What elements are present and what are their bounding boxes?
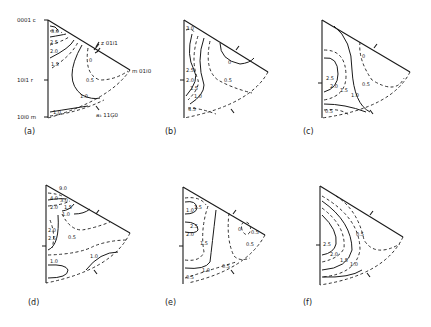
contour-label: 0 xyxy=(362,53,365,59)
panel-f-caption: (f) xyxy=(303,298,312,307)
panel-c: 2.5 2.0 1.5 1.0 0.5 0 0.5 (c) xyxy=(303,20,410,136)
contour-label: 1.5 xyxy=(190,85,198,91)
contour-label: 1.0 xyxy=(50,258,58,264)
contour-label: 1.0 xyxy=(350,261,358,267)
contour-label: 0.5 xyxy=(224,77,232,83)
contour-label: 0 xyxy=(89,57,92,63)
contour-label: 2.5 xyxy=(48,235,56,241)
pole-label-r: 10ī1 r xyxy=(17,77,34,83)
contour-label: 2.0 xyxy=(330,83,338,89)
contour-label: 0.5 xyxy=(362,81,370,87)
contour-label: 0 xyxy=(238,226,241,232)
pole-label-m2: m 01ī0 xyxy=(132,68,152,74)
contour-label: 9.0 xyxy=(59,185,67,191)
contour-label: 1.0 xyxy=(53,109,61,115)
contour-label: 1.0 xyxy=(194,93,202,99)
contour-label: 2.0 xyxy=(48,227,56,233)
contour-label: 2.5 xyxy=(50,39,58,45)
contour-label: 1.5 xyxy=(200,240,208,246)
pole-label-c: 0001 c xyxy=(17,17,36,23)
contour-label: 2.5 xyxy=(326,75,334,81)
contour-label: 2.0 xyxy=(50,48,58,54)
contour-label: 0.5 xyxy=(68,234,76,240)
contour-label: 1.5 xyxy=(64,204,72,210)
contour-label: 0.5 xyxy=(246,241,254,247)
contour-label: 3.0 xyxy=(186,25,194,31)
contour-label: 1.0 xyxy=(62,211,70,217)
contour-label: 1.5 xyxy=(340,257,348,263)
panel-f: 2.5 2.0 1.5 1.0 0.5 (f) xyxy=(303,186,403,307)
contour-label: 2.5 xyxy=(323,241,331,247)
panel-a-ticks xyxy=(44,20,48,117)
contour-label: 0.5 xyxy=(186,274,194,280)
contour-label: 2.0 xyxy=(330,251,338,257)
contour-label: 0.5 xyxy=(251,229,259,235)
pole-label-z: z 01ī1 xyxy=(101,40,118,46)
contour-label: 0.5 xyxy=(325,108,333,114)
contour-label: 2.0 xyxy=(50,204,58,210)
contour-label: 0.5 xyxy=(86,77,94,83)
panel-a-caption: (a) xyxy=(24,127,35,136)
panel-e-caption: (e) xyxy=(165,298,176,307)
contour-label: 3.0 xyxy=(60,197,68,203)
contour-label: 0.5 xyxy=(222,263,230,269)
pole-label-m: 10ī0 m xyxy=(17,114,36,120)
contour-label: 1.0 xyxy=(186,207,194,213)
panel-c-caption: (c) xyxy=(303,127,314,136)
contour-label: 2.5 xyxy=(190,223,198,229)
contour-label: 1.0 xyxy=(351,92,359,98)
panel-b: 3.0 2.5 2.0 1.5 1.0 0.5 0 4.5 (b) xyxy=(165,20,268,136)
panel-b-caption: (b) xyxy=(165,127,176,136)
contour-label: 2.5 xyxy=(186,67,194,73)
panel-a: 0001 c 10ī1 r 10ī0 m z 01ī1 m 01ī0 a₃ 11… xyxy=(17,17,152,136)
contour-label: 2.0 xyxy=(186,77,194,83)
contour-label: 1.0 xyxy=(90,253,98,259)
pole-figure-diagram: 0001 c 10ī1 r 10ī0 m z 01ī1 m 01ī0 a₃ 11… xyxy=(0,0,431,327)
contour-label: 1.5 xyxy=(194,204,202,210)
contour-label: 4.0 xyxy=(50,195,58,201)
contour-label: 4.5 xyxy=(188,106,196,112)
contour-label: 0.5 xyxy=(356,231,364,237)
panel-d: 9.0 4.0 3.0 2.0 1.5 1.0 0.5 2.0 2.5 1.0 … xyxy=(28,185,130,307)
contour-label: 1.5 xyxy=(340,87,348,93)
panel-e: 1.0 1.5 2.5 2.0 1.5 1.0 0.5 0.5 0 0.5 0.… xyxy=(165,187,265,307)
contour-label: 1.5 xyxy=(51,61,59,67)
contour-label: 0 xyxy=(228,59,231,65)
contour-label: 2.0 xyxy=(186,231,194,237)
contour-label: 3.0 xyxy=(51,28,59,34)
panel-d-caption: (d) xyxy=(28,298,39,307)
pole-label-a: a₃ 11Ģ0 xyxy=(96,112,119,119)
contour-label: 1.0 xyxy=(202,267,210,273)
contour-label: 1.0 xyxy=(80,93,88,99)
